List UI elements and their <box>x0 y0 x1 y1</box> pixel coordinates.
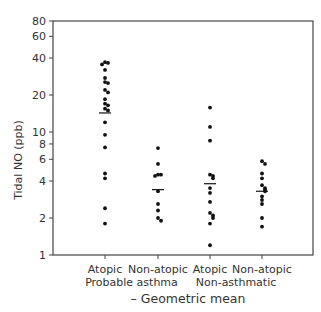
data-point <box>260 202 264 206</box>
data-point <box>208 222 212 226</box>
y-tick-label: 8 <box>39 138 46 151</box>
legend-geometric-mean: – Geometric mean <box>131 291 246 306</box>
x-category-label: Non-atopic <box>128 263 188 276</box>
data-point <box>208 106 212 110</box>
data-point <box>106 61 110 65</box>
y-tick-label: 60 <box>32 30 46 43</box>
data-point <box>103 222 107 226</box>
data-point <box>156 216 160 220</box>
data-point <box>106 103 110 107</box>
data-point <box>106 81 110 85</box>
data-point <box>208 243 212 247</box>
data-point <box>208 125 212 129</box>
data-point <box>260 159 264 163</box>
data-point <box>211 176 215 180</box>
data-points <box>100 60 267 247</box>
data-point <box>208 211 212 215</box>
x-group-label: Non-asthmatic <box>196 276 277 289</box>
data-point <box>156 146 160 150</box>
data-point <box>260 176 264 180</box>
plot-border <box>53 21 313 255</box>
scatter-chart: 124681020406080 AtopicNon-atopicAtopicNo… <box>0 0 321 312</box>
data-point <box>159 173 163 177</box>
x-axis: AtopicNon-atopicAtopicNon-atopicProbable… <box>85 255 292 289</box>
x-category-label: Atopic <box>88 263 122 276</box>
chart-svg: 124681020406080 AtopicNon-atopicAtopicNo… <box>0 0 321 312</box>
y-tick-label: 40 <box>32 52 46 65</box>
x-category-label: Non-atopic <box>232 263 292 276</box>
y-tick-label: 1 <box>39 249 46 262</box>
data-point <box>260 216 264 220</box>
data-point <box>263 162 267 166</box>
data-point <box>156 202 160 206</box>
y-tick-label: 6 <box>39 153 46 166</box>
data-point <box>103 120 107 124</box>
y-tick-label: 4 <box>39 175 46 188</box>
x-group-label: Probable asthma <box>85 276 178 289</box>
data-point <box>103 133 107 137</box>
data-point <box>260 172 264 176</box>
data-point <box>159 219 163 223</box>
geometric-mean-markers <box>99 113 268 191</box>
data-point <box>211 216 215 220</box>
data-point <box>100 62 104 66</box>
y-axis: 124681020406080 <box>32 15 53 262</box>
y-tick-label: 2 <box>39 212 46 225</box>
plot-frame <box>53 21 313 255</box>
data-point <box>156 162 160 166</box>
data-point <box>260 225 264 229</box>
data-point <box>156 209 160 213</box>
data-point <box>103 88 107 92</box>
data-point <box>103 176 107 180</box>
data-point <box>106 91 110 95</box>
x-category-label: Atopic <box>193 263 227 276</box>
y-tick-label: 10 <box>32 126 46 139</box>
data-point <box>103 172 107 176</box>
data-point <box>260 183 264 187</box>
data-point <box>260 198 264 202</box>
data-point <box>103 76 107 80</box>
y-tick-label: 20 <box>32 89 46 102</box>
y-tick-label: 80 <box>32 15 46 28</box>
data-point <box>208 191 212 195</box>
data-point <box>106 108 110 112</box>
data-point <box>103 68 107 72</box>
data-point <box>208 186 212 190</box>
data-point <box>260 194 264 198</box>
data-point <box>208 139 212 143</box>
data-point <box>153 174 157 178</box>
y-axis-label: Tidal NO (ppb) <box>12 120 25 201</box>
data-point <box>103 97 107 101</box>
data-point <box>103 146 107 150</box>
data-point <box>208 200 212 204</box>
data-point <box>103 206 107 210</box>
